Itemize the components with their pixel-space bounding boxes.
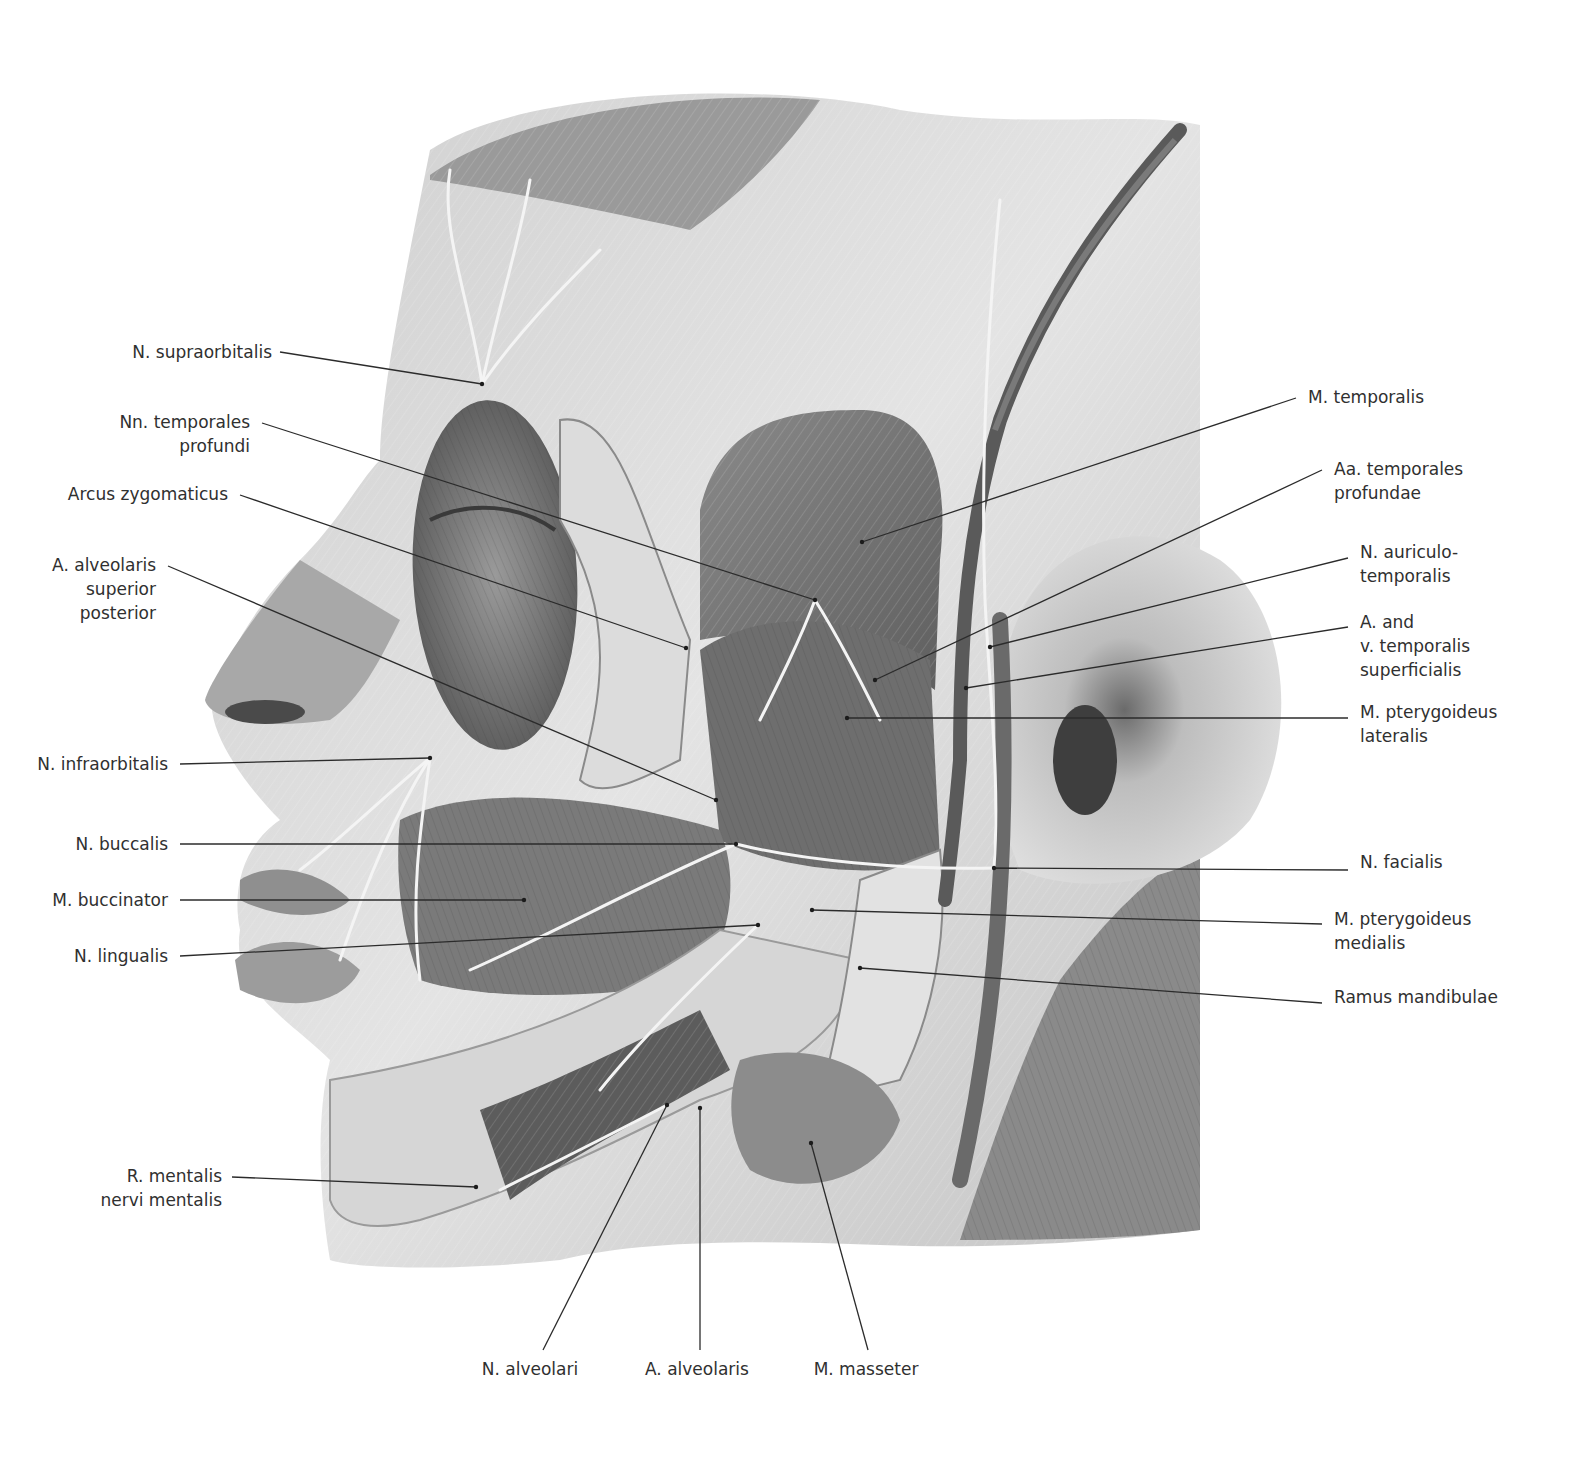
leader-dot-aa-temporales-profundae	[873, 678, 877, 682]
label-arcus-zygomaticus: Arcus zygomaticus	[68, 482, 228, 506]
label-a-and-v-temporalis-superficialis: A. and v. temporalis superficialis	[1360, 610, 1470, 682]
leader-dot-a-alveolaris-superior-posterior	[714, 798, 718, 802]
label-m-temporalis: M. temporalis	[1308, 385, 1424, 409]
anatomical-head-illustration	[0, 0, 1585, 1465]
label-n-infraorbitalis: N. infraorbitalis	[37, 752, 168, 776]
leader-dot-n-supraorbitalis	[480, 382, 484, 386]
label-n-auriculo-temporalis: N. auriculo- temporalis	[1360, 540, 1458, 588]
label-n-supraorbitalis: N. supraorbitalis	[132, 340, 272, 364]
leader-dot-n-facialis	[992, 866, 996, 870]
label-n-alveolaris-inferior: N. alveolari	[460, 1357, 600, 1381]
label-ramus-mandibulae: Ramus mandibulae	[1334, 985, 1498, 1009]
leader-dot-n-auriculo-temporalis	[988, 645, 992, 649]
label-n-buccalis: N. buccalis	[75, 832, 168, 856]
leader-dot-a-alveolaris-inferior	[698, 1106, 702, 1110]
label-m-pterygoideus-lateralis: M. pterygoideus lateralis	[1360, 700, 1497, 748]
leader-dot-m-temporalis	[860, 540, 864, 544]
leader-dot-n-infraorbitalis	[428, 756, 432, 760]
leader-dot-nn-temporales-profundi	[813, 598, 817, 602]
leader-dot-r-mentalis-nervi-mentalis	[474, 1185, 478, 1189]
label-aa-temporales-profundae: Aa. temporales profundae	[1334, 457, 1463, 505]
leader-dot-n-lingualis	[756, 923, 760, 927]
label-n-lingualis: N. lingualis	[74, 944, 168, 968]
ear	[996, 536, 1281, 884]
label-a-alveolaris-superior-posterior: A. alveolaris superior posterior	[52, 553, 156, 625]
leader-dot-n-buccalis	[734, 842, 738, 846]
leader-dot-m-buccinator	[522, 898, 526, 902]
label-m-masseter: M. masseter	[796, 1357, 936, 1381]
label-r-mentalis-nervi-mentalis: R. mentalis nervi mentalis	[100, 1164, 222, 1212]
label-m-buccinator: M. buccinator	[52, 888, 168, 912]
pterygoid-region	[700, 621, 940, 870]
label-m-pterygoideus-medialis: M. pterygoideus medialis	[1334, 907, 1471, 955]
label-a-alveolaris-inferior: A. alveolaris	[627, 1357, 767, 1381]
label-nn-temporales-profundi: Nn. temporales profundi	[119, 410, 250, 458]
leader-dot-ramus-mandibulae	[858, 966, 862, 970]
label-n-facialis: N. facialis	[1360, 850, 1443, 874]
leader-dot-a-and-v-temporalis-superficialis	[964, 686, 968, 690]
leader-dot-m-masseter	[809, 1141, 813, 1145]
leader-dot-m-pterygoideus-lateralis	[845, 716, 849, 720]
leader-dot-arcus-zygomaticus	[684, 646, 688, 650]
leader-dot-m-pterygoideus-medialis	[810, 908, 814, 912]
leader-dot-n-alveolaris-inferior	[665, 1103, 669, 1107]
